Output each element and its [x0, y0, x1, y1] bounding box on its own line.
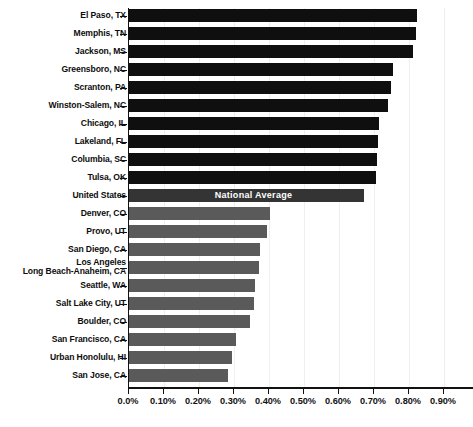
- category-tick: [120, 214, 127, 215]
- x-axis-tick-label-0-60: 0.60%: [325, 396, 351, 406]
- category-tick: [120, 322, 127, 323]
- category-tick: [120, 268, 127, 269]
- category-tick: [120, 70, 127, 71]
- x-axis-tick: [198, 388, 199, 394]
- x-axis-tick: [408, 388, 409, 394]
- category-tick: [120, 304, 127, 305]
- category-label-lakeland-fl: Lakeland, FL: [75, 137, 126, 146]
- gridline-0-80: [409, 8, 410, 387]
- x-axis-tick: [373, 388, 374, 394]
- x-axis-tick: [338, 388, 339, 394]
- bar-boulder-co: [129, 315, 250, 328]
- category-label-scranton-pa: Scranton, PA: [74, 83, 126, 92]
- category-tick: [120, 250, 127, 251]
- bar-denver-co: [129, 207, 270, 220]
- bar-columbia-sc: [129, 153, 377, 166]
- category-tick: [120, 160, 127, 161]
- bar-chicago-il: [129, 117, 379, 130]
- category-label-salt-lake-city-ut: Salt Lake City, UT: [56, 299, 126, 308]
- category-label-san-jose-ca: San Jose, CA: [72, 371, 126, 380]
- category-label-winston-salem-nc: Winston-Salem, NC: [49, 101, 126, 110]
- category-label-san-francisco-ca: San Francisco, CA: [52, 335, 126, 344]
- category-tick: [120, 124, 127, 125]
- x-axis-tick: [268, 388, 269, 394]
- bar-jackson-ms: [129, 45, 413, 58]
- bar-seattle-wa: [129, 279, 255, 292]
- bar-chart: El Paso, TXMemphis, TNJackson, MSGreensb…: [0, 0, 473, 427]
- bar-san-francisco-ca: [129, 333, 236, 346]
- category-tick: [120, 106, 127, 107]
- x-axis-line: [128, 387, 473, 389]
- x-axis-tick: [303, 388, 304, 394]
- x-axis-tick-label-0-50: 0.50%: [290, 396, 316, 406]
- bar-winston-salem-nc: [129, 99, 388, 112]
- x-axis-tick-label-0-20: 0.20%: [185, 396, 211, 406]
- category-tick: [120, 88, 127, 89]
- x-axis-tick-label-0-0: 0.0%: [118, 396, 139, 406]
- category-label-los-angeles: Los Angeles Long Beach-Anaheim, CA: [23, 258, 126, 276]
- x-axis-tick-label-0-70: 0.70%: [360, 396, 386, 406]
- x-axis-tick-label-0-10: 0.10%: [150, 396, 176, 406]
- category-label-columbia-sc: Columbia, SC: [71, 155, 126, 164]
- category-label-urban-honolulu-hi: Urban Honolulu, HI: [50, 353, 126, 362]
- bar-san-jose-ca: [129, 369, 228, 382]
- bar-lakeland-fl: [129, 135, 378, 148]
- category-label-jackson-ms: Jackson, MS: [75, 47, 126, 56]
- category-tick: [120, 232, 127, 233]
- category-label-memphis-tn: Memphis, TN: [74, 29, 126, 38]
- bar-greensboro-nc: [129, 63, 393, 76]
- bar-salt-lake-city-ut: [129, 297, 254, 310]
- national-average-annotation: National Average: [215, 189, 293, 202]
- x-axis-tick-label-0-30: 0.30%: [220, 396, 246, 406]
- bar-urban-honolulu-hi: [129, 351, 232, 364]
- category-tick: [120, 286, 127, 287]
- bar-el-paso-tx: [129, 9, 417, 22]
- category-tick: [120, 340, 127, 341]
- category-tick: [120, 358, 127, 359]
- category-tick: [120, 178, 127, 179]
- category-tick: [120, 376, 127, 377]
- x-axis-tick-label-0-80: 0.80%: [395, 396, 421, 406]
- x-axis-tick: [443, 388, 444, 394]
- category-label-greensboro-nc: Greensboro, NC: [62, 65, 127, 74]
- x-axis-tick-label-0-40: 0.40%: [255, 396, 281, 406]
- bar-san-diego-ca: [129, 243, 260, 256]
- x-axis-tick: [163, 388, 164, 394]
- bar-los-angeles: [129, 261, 259, 274]
- bar-memphis-tn: [129, 27, 416, 40]
- x-axis-tick-label-0-90: 0.90%: [430, 396, 456, 406]
- category-tick: [120, 52, 127, 53]
- gridline-0-90: [444, 8, 445, 387]
- x-axis-tick: [128, 388, 129, 394]
- category-tick: [120, 196, 127, 197]
- category-tick: [120, 142, 127, 143]
- plot-area: National Average: [128, 8, 473, 387]
- category-label-boulder-co: Boulder, CO: [77, 317, 126, 326]
- bar-provo-ut: [129, 225, 267, 238]
- category-tick: [120, 34, 127, 35]
- category-label-united-states: United States: [72, 191, 126, 200]
- category-tick: [120, 16, 127, 17]
- bar-scranton-pa: [129, 81, 391, 94]
- bar-tulsa-ok: [129, 171, 376, 184]
- category-label-san-diego-ca: San Diego, CA: [68, 245, 126, 254]
- x-axis-tick: [233, 388, 234, 394]
